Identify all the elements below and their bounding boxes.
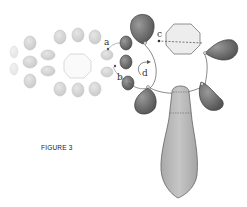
label-d-marker: d bbox=[138, 60, 151, 78]
label-c: c bbox=[157, 29, 162, 39]
figure-caption: FIGURE 3 bbox=[41, 144, 73, 151]
octagon bbox=[166, 24, 200, 54]
label-d: d bbox=[142, 68, 148, 78]
figure-3-diagram: a b d c bbox=[0, 0, 247, 207]
dark-subunits bbox=[120, 36, 134, 90]
label-a: a bbox=[104, 37, 110, 47]
elongated-stalk bbox=[161, 86, 198, 198]
faded-subunit-cluster bbox=[10, 28, 113, 97]
faded-octagon bbox=[64, 54, 91, 78]
label-c-marker: c bbox=[157, 29, 162, 42]
